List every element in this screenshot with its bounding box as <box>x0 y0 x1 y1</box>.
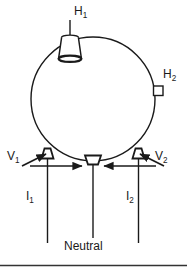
label-h1: H1 <box>74 5 87 21</box>
label-v2: V2 <box>155 150 168 166</box>
label-h2: H2 <box>163 68 176 84</box>
transformer-diagram <box>0 0 187 272</box>
high-voltage-bushing-h2 <box>154 86 164 96</box>
voltage-arrow-v1-outer <box>22 154 46 166</box>
h2-square <box>154 86 164 96</box>
label-neutral: Neutral <box>64 240 103 252</box>
low-voltage-bushing-neutral <box>85 156 101 165</box>
label-i2: I2 <box>126 190 134 206</box>
figure-canvas: H1 H2 V1 V2 I1 I2 Neutral <box>0 0 187 272</box>
label-i1: I1 <box>26 190 34 206</box>
low-voltage-bushing-left <box>42 149 54 159</box>
label-v1: V1 <box>7 150 20 166</box>
h1-base-band <box>59 56 82 62</box>
transformer-tank-ellipse <box>31 37 155 161</box>
low-voltage-bushing-right <box>133 149 145 159</box>
high-voltage-bushing-h1 <box>59 20 82 62</box>
